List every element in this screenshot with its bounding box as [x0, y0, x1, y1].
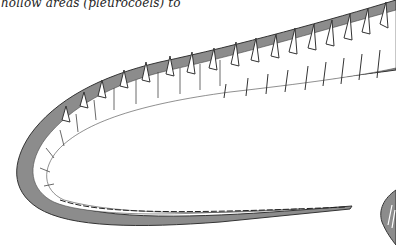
tail-skeleton-illustration [0, 0, 396, 245]
vertebrae-band [33, 10, 396, 214]
